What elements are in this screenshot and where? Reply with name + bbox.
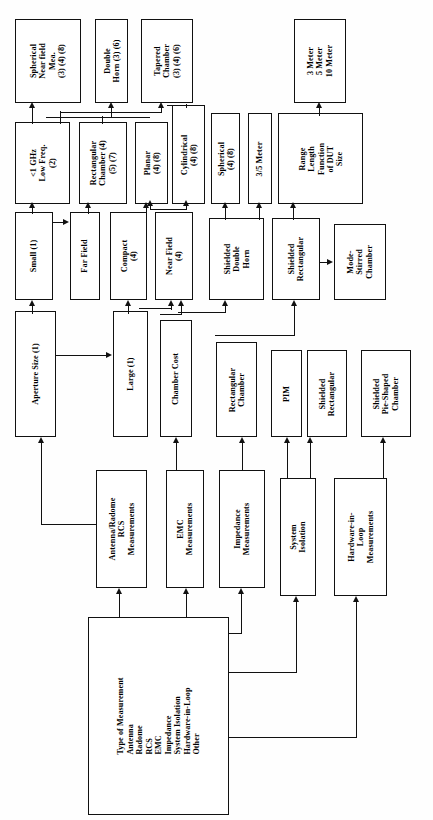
node-chamber-cost[interactable]: Chamber Cost	[160, 320, 192, 437]
edge-rangelength-meters	[319, 108, 320, 116]
arrowhead	[238, 588, 244, 594]
arrowhead	[147, 200, 153, 206]
edge-root-antenna	[119, 594, 120, 617]
node-impedance-measurements[interactable]: Impedance Measurements	[219, 470, 265, 588]
node-shielded-rectangular-b[interactable]: Shielded Rectangular	[307, 350, 347, 437]
edge-rectb-shrect-h	[215, 335, 295, 336]
node-hardware-in-loop[interactable]: Hardware-in- Loop Measurements	[334, 478, 387, 596]
edge-recta-tap-v	[102, 116, 103, 124]
edge-shdh-spherical	[225, 208, 226, 220]
edge-lowfreq-tap-v	[60, 111, 61, 124]
arrowhead	[178, 300, 184, 306]
node-label: 3 Meter 5 Meter 10 Meter	[306, 45, 334, 77]
node-label: Far Field	[80, 239, 89, 272]
node-label: Antenna/Radome RCS Measurements	[108, 498, 136, 561]
node-tapered-chamber[interactable]: Tapered Chamber (3) (4) (6)	[141, 19, 193, 103]
node-label: Shielded Pie-Shaped Chamber	[372, 373, 400, 414]
node-label: Chamber Cost	[171, 352, 180, 404]
node-aperture-size[interactable]: Aperture Size (1)	[15, 311, 56, 437]
flowchart-canvas: Spherical Near field Mea. (3) (4) (8) Do…	[0, 0, 433, 820]
edge-lowfreq-tap-h	[60, 112, 162, 113]
node-type-of-measurement[interactable]: Type of Measurement Antenna Radome RCS E…	[88, 617, 229, 815]
edge-aperture-small	[32, 306, 33, 314]
edge-large-nearfield-v	[171, 306, 172, 310]
arrowhead	[38, 437, 44, 443]
node-label: Compact (4)	[119, 240, 138, 273]
node-three-five-meter[interactable]: 3/5 Meter	[248, 113, 272, 204]
node-shielded-pie-shaped[interactable]: Shielded Pie-Shaped Chamber	[361, 350, 411, 437]
arrowhead	[168, 300, 174, 306]
arrowhead	[63, 219, 69, 225]
node-far-field[interactable]: Far Field	[70, 212, 100, 300]
node-label: Large (1)	[126, 357, 135, 390]
edge-aperture-large-h	[56, 355, 107, 356]
node-label: PIM	[282, 385, 291, 401]
node-emc-measurements[interactable]: EMC Measurements	[166, 470, 204, 588]
node-label: Shielded Double Horn	[223, 244, 251, 275]
node-label: System Isolation	[289, 521, 308, 552]
edge-root-hil-h	[229, 737, 357, 738]
node-label: 3/5 Meter	[255, 141, 264, 176]
edge-large-compact	[128, 306, 129, 314]
node-meters[interactable]: 3 Meter 5 Meter 10 Meter	[294, 19, 346, 103]
arrowhead	[29, 102, 35, 108]
node-label: Near Field (4)	[165, 237, 184, 275]
arrowhead	[293, 596, 299, 602]
arrowhead	[158, 102, 164, 108]
arrowhead	[290, 202, 296, 208]
node-large[interactable]: Large (1)	[113, 311, 148, 437]
node-label: Rectangular Chamber (4) (5) (7)	[89, 140, 117, 186]
node-double-horn[interactable]: Double Horn (3) (6)	[95, 19, 128, 103]
arrowhead	[353, 596, 359, 602]
edge-large-nearfield-h	[139, 308, 172, 309]
node-shielded-double-horn[interactable]: Shielded Double Horn	[209, 218, 264, 300]
arrowhead	[307, 437, 313, 443]
arrowhead	[85, 202, 91, 208]
edge-root-impedance-v	[241, 594, 242, 634]
edge-root-sysiso-v	[296, 602, 297, 673]
node-rectangular-chamber-b[interactable]: Rectangular Chamber	[216, 342, 257, 437]
edge-farfield-recta	[88, 208, 89, 214]
arrowhead	[222, 300, 228, 306]
node-compact[interactable]: Compact (4)	[110, 212, 147, 300]
node-antenna-radome-rcs[interactable]: Antenna/Radome RCS Measurements	[96, 470, 147, 588]
edge-root-emc	[186, 594, 187, 617]
edge-nearfield-cyl-v	[186, 206, 187, 210]
node-label: Mode- Stirred Chamber	[346, 245, 374, 279]
node-spherical[interactable]: Spherical (4) (8)	[211, 113, 240, 204]
arrowhead	[291, 300, 297, 306]
node-range-length[interactable]: Range Length Function of DUT Size	[278, 113, 363, 204]
node-label: <1 GHz Low Freq. (2)	[29, 144, 57, 181]
edge-impedance-rectb	[242, 443, 243, 471]
edge-cyl-tap-v	[186, 104, 187, 108]
node-label: Double Horn (3) (6)	[102, 39, 121, 82]
node-label: Cylindrical (4) (8)	[179, 134, 198, 175]
edge-compact-planar	[146, 208, 147, 214]
edge-cost-nearfield-v	[181, 306, 182, 315]
node-label: Hardware-in- Loop Measurements	[347, 511, 375, 563]
edge-lowfreq-sphnf	[32, 108, 33, 124]
edge-root-hil-v	[356, 602, 357, 738]
node-pim[interactable]: PIM	[271, 350, 302, 437]
arrowhead	[183, 200, 189, 206]
node-small[interactable]: Small (1)	[15, 212, 53, 300]
edge-hil-pieshaped	[383, 443, 384, 479]
node-spherical-near-field-mea[interactable]: Spherical Near field Mea. (3) (4) (8)	[15, 19, 81, 103]
node-label: Type of Measurement Antenna Radome RCS E…	[116, 677, 202, 754]
node-label: Planar (4) (8)	[142, 151, 161, 175]
arrowhead	[173, 437, 179, 443]
arrowhead	[239, 437, 245, 443]
edge-sysiso-shieldrectb	[310, 443, 311, 479]
node-cylindrical[interactable]: Cylindrical (4) (8)	[172, 105, 205, 204]
edge-recta-tap-h	[102, 117, 150, 118]
node-rectangular-chamber-a[interactable]: Rectangular Chamber (4) (5) (7)	[79, 122, 127, 204]
arrowhead	[380, 437, 386, 443]
node-mode-stirred-chamber[interactable]: Mode- Stirred Chamber	[334, 224, 386, 300]
node-shielded-rectangular-a[interactable]: Shielded Rectangular	[272, 218, 320, 300]
node-label: Tapered Chamber (3) (4) (6)	[153, 44, 181, 78]
node-near-field[interactable]: Near Field (4)	[155, 212, 193, 300]
node-system-isolation[interactable]: System Isolation	[280, 478, 316, 596]
node-low-freq[interactable]: <1 GHz Low Freq. (2)	[15, 122, 70, 204]
node-planar[interactable]: Planar (4) (8)	[135, 122, 168, 204]
edge-shrect-rangelength	[293, 208, 294, 220]
